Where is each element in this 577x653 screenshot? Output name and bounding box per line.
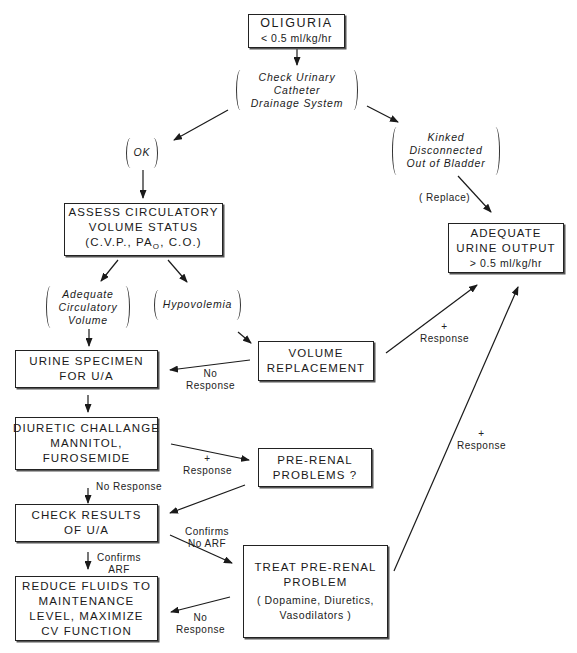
node-line: REDUCE FLUIDS TO bbox=[22, 579, 151, 594]
paren-left bbox=[154, 290, 163, 320]
node-oliguria: OLIGURIA < 0.5 ml/kg/hr bbox=[248, 14, 345, 48]
arrow-check-to-kinked bbox=[367, 106, 398, 122]
node-diuretic-challenge: DIURETIC CHALLANGE MANNITOL, FUROSEMIDE bbox=[15, 417, 158, 470]
node-line-part: , C.O.) bbox=[160, 236, 202, 248]
condition-line: Catheter bbox=[236, 84, 358, 97]
node-line: PRE-RENAL bbox=[277, 453, 353, 468]
label-line: ARF bbox=[97, 564, 141, 576]
arrow-hypovolemia-to-volume bbox=[238, 332, 251, 343]
paren-left bbox=[46, 286, 55, 328]
condition-line: Circulatory bbox=[46, 301, 130, 314]
label-diuretic-response: + Response bbox=[183, 453, 232, 477]
paren-right bbox=[349, 70, 358, 110]
label-line: Response bbox=[183, 465, 232, 477]
condition-line: Drainage System bbox=[236, 97, 358, 110]
condition-ok: OK bbox=[126, 138, 158, 168]
node-line: TREAT PRE-RENAL bbox=[254, 560, 376, 575]
label-volume-no-response: No Response bbox=[186, 368, 235, 392]
label-line: No bbox=[186, 368, 235, 380]
condition-hypovolemia: Hypovolemia bbox=[154, 290, 241, 320]
node-line: ASSESS CIRCULATORY bbox=[68, 205, 218, 220]
paren-right bbox=[149, 138, 158, 168]
node-adequate-urine-output: ADEQUATE URINE OUTPUT > 0.5 ml/kg/hr bbox=[448, 223, 564, 273]
arrow-treat-to-reduce bbox=[171, 597, 230, 612]
node-prerenal-problems: PRE-RENAL PROBLEMS ? bbox=[258, 448, 372, 487]
node-line: MAINTENANCE bbox=[39, 594, 135, 609]
node-line: CHECK RESULTS bbox=[32, 508, 142, 523]
node-line-part: (C.V.P., PA bbox=[85, 236, 153, 248]
node-line: FUROSEMIDE bbox=[43, 451, 131, 466]
label-line: + bbox=[457, 428, 506, 440]
node-line: FOR U/A bbox=[59, 369, 113, 384]
node-reduce-fluids: REDUCE FLUIDS TO MAINTENANCE LEVEL, MAXI… bbox=[15, 576, 158, 641]
node-line: PROBLEMS ? bbox=[273, 468, 358, 483]
condition-line: Volume bbox=[46, 314, 130, 327]
condition-line: Hypovolemia bbox=[154, 298, 241, 311]
label-line: Confirms bbox=[97, 552, 141, 564]
node-line: > 0.5 ml/kg/hr bbox=[470, 256, 542, 271]
label-volume-response: + Response bbox=[420, 321, 469, 345]
condition-line: Disconnected bbox=[392, 144, 500, 157]
arrow-assess-to-hypovolemia bbox=[168, 260, 187, 282]
node-line: URINE SPECIMEN bbox=[29, 354, 143, 369]
node-check-results: CHECK RESULTS OF U/A bbox=[15, 504, 158, 542]
paren-right bbox=[232, 290, 241, 320]
node-oliguria-threshold: < 0.5 ml/kg/hr bbox=[261, 31, 332, 46]
node-line: OF U/A bbox=[64, 523, 109, 538]
label-line: + bbox=[420, 321, 469, 333]
label-line: Response bbox=[176, 624, 225, 636]
label-line: No bbox=[176, 612, 225, 624]
label-line: Response bbox=[420, 333, 469, 345]
label-confirms-arf: Confirms ARF bbox=[97, 552, 141, 576]
node-line: ADEQUATE bbox=[470, 226, 541, 241]
node-line: ( Dopamine, Diuretics, bbox=[257, 593, 374, 608]
paren-right bbox=[121, 286, 130, 328]
label-diuretic-no-response: No Response bbox=[96, 481, 162, 493]
paren-right bbox=[491, 127, 500, 175]
label-line: + bbox=[183, 453, 232, 465]
node-volume-replacement: VOLUME REPLACEMENT bbox=[258, 341, 374, 381]
arrow-check-to-ok bbox=[174, 110, 228, 140]
paren-left bbox=[236, 70, 245, 110]
node-line: PROBLEM bbox=[284, 575, 348, 590]
node-line: CV FUNCTION bbox=[41, 624, 132, 639]
paren-left bbox=[392, 127, 401, 175]
node-line: LEVEL, MAXIMIZE bbox=[29, 609, 143, 624]
label-treat-no-response: No Response bbox=[176, 612, 225, 636]
node-oliguria-title: OLIGURIA bbox=[260, 16, 333, 31]
label-confirms-no-arf: Confirms No ARF bbox=[185, 526, 229, 550]
label-line: Confirms bbox=[185, 526, 229, 538]
condition-adequate-volume: Adequate Circulatory Volume bbox=[46, 286, 130, 328]
paren-left bbox=[126, 138, 135, 168]
arrow-prerenal-to-check-results bbox=[170, 485, 245, 513]
node-line: URINE OUTPUT bbox=[456, 241, 555, 256]
label-line: No ARF bbox=[185, 538, 229, 550]
node-line: (C.V.P., PAO, C.O.) bbox=[85, 235, 201, 254]
node-assess-circulatory: ASSESS CIRCULATORY VOLUME STATUS (C.V.P.… bbox=[64, 203, 223, 256]
node-line: Vasodilators ) bbox=[280, 608, 352, 623]
condition-kinked: Kinked Disconnected Out of Bladder bbox=[392, 127, 500, 175]
node-line: VOLUME bbox=[288, 346, 343, 361]
label-line: Response bbox=[186, 380, 235, 392]
condition-line: Adequate bbox=[46, 288, 130, 301]
condition-check-catheter: Check Urinary Catheter Drainage System bbox=[236, 70, 358, 110]
node-line: VOLUME STATUS bbox=[89, 220, 199, 235]
node-treat-prerenal: TREAT PRE-RENAL PROBLEM ( Dopamine, Diur… bbox=[243, 545, 388, 638]
label-line: Response bbox=[457, 440, 506, 452]
label-treat-response: + Response bbox=[457, 428, 506, 452]
condition-line: Kinked bbox=[392, 131, 500, 144]
condition-line: Check Urinary bbox=[236, 71, 358, 84]
node-urine-specimen: URINE SPECIMEN FOR U/A bbox=[15, 350, 158, 388]
node-line: DIURETIC CHALLANGE bbox=[13, 421, 160, 436]
arrow-assess-to-adequate-volume bbox=[101, 260, 118, 281]
condition-line: Out of Bladder bbox=[392, 157, 500, 170]
node-line: REPLACEMENT bbox=[267, 361, 365, 376]
node-line: MANNITOL, bbox=[50, 436, 122, 451]
label-replace: ( Replace) bbox=[419, 192, 470, 204]
